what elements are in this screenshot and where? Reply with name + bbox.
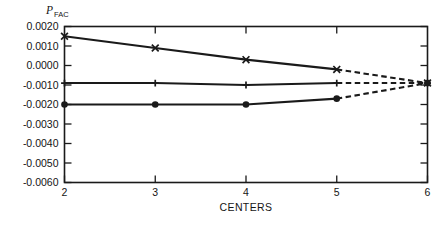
y-tick-label: 0.0010 — [26, 40, 58, 52]
x-tick-label: 4 — [243, 186, 249, 198]
x-axis-ticks-top — [155, 27, 337, 34]
x-tick-label: 2 — [62, 186, 68, 198]
marker-dot — [243, 101, 250, 108]
series-middle — [61, 80, 431, 89]
marker-dot — [424, 80, 431, 87]
y-tick-label: -0.0030 — [23, 118, 59, 130]
marker-dot — [333, 95, 340, 102]
y-tick-label: 0.0020 — [26, 20, 58, 32]
y-tick-label: -0.0060 — [23, 176, 59, 188]
y-axis-title-subscript: FAC — [54, 10, 69, 19]
x-axis-tick-labels: 23456 — [62, 186, 431, 198]
y-axis-title-main: P — [45, 4, 53, 16]
series-upper — [61, 33, 431, 87]
x-axis-ticks — [65, 176, 428, 183]
data-series-layer — [61, 33, 431, 108]
y-axis-ticks-right — [421, 27, 428, 183]
marker-plus — [243, 82, 250, 89]
x-tick-label: 3 — [152, 186, 158, 198]
chart-figure: P FAC 0.00200.00100.0000-0.0010-0.0020-0… — [0, 0, 445, 229]
line-chart: P FAC 0.00200.00100.0000-0.0010-0.0020-0… — [0, 0, 445, 229]
y-axis-tick-labels: 0.00200.00100.0000-0.0010-0.0020-0.0030-… — [23, 20, 59, 188]
series-line-dashed — [337, 69, 428, 83]
marker-plus — [152, 80, 159, 87]
series-line-dashed — [337, 83, 428, 99]
series-line-solid — [65, 99, 337, 105]
y-tick-label: 0.0000 — [26, 59, 58, 71]
x-tick-label: 6 — [425, 186, 431, 198]
x-tick-label: 5 — [334, 186, 340, 198]
x-axis-title: CENTERS — [220, 201, 273, 213]
series-line-solid — [65, 83, 337, 85]
y-tick-label: -0.0040 — [23, 137, 59, 149]
marker-dot — [61, 101, 68, 108]
series-line-solid — [65, 36, 337, 69]
marker-plus — [333, 80, 340, 87]
y-tick-label: -0.0050 — [23, 157, 59, 169]
marker-dot — [152, 101, 159, 108]
y-tick-label: -0.0020 — [23, 98, 59, 110]
y-axis-title: P FAC — [45, 4, 69, 19]
y-tick-label: -0.0010 — [23, 79, 59, 91]
